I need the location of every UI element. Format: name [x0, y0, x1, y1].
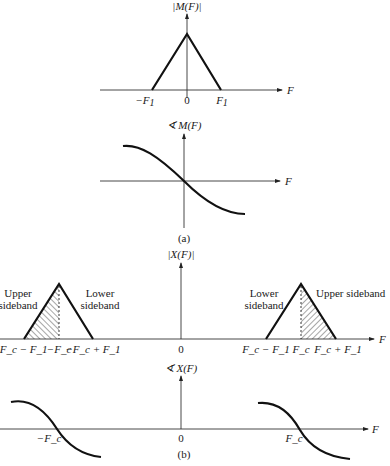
x-axis-label: F	[284, 175, 292, 187]
tick-zero: 0	[178, 343, 184, 355]
right-upper-sideband-label: Upper sideband	[316, 287, 386, 299]
y-axis-label: |M(F)|	[172, 0, 201, 13]
tick-fc-minus-f1: F_c − F_1	[241, 343, 290, 355]
left-upper-sideband-label-1: Upper	[4, 287, 32, 299]
left-lower-sideband-label-2: sideband	[80, 299, 120, 311]
left-upper-sideband-label-2: sideband	[0, 299, 38, 311]
y-axis-label: ∢ X(F)	[165, 362, 198, 375]
baseband-triangle	[152, 34, 221, 90]
tick-zero: 0	[178, 432, 184, 444]
phase-plot-b: ∢ X(F) F 0 −F_c F_c (b)	[0, 362, 379, 461]
right-lower-sideband-label-1: Lower	[250, 287, 279, 299]
tick-fc-plus-f1: F_c + F_1	[313, 343, 362, 355]
modulation-spectrum-diagram: |M(F)| F −F1 0 F1 ∢ M(F) F (a) |X(F)| F …	[0, 0, 390, 466]
left-lower-sideband-label-1: Lower	[86, 287, 115, 299]
x-axis-label: F	[371, 423, 379, 435]
x-axis-label: F	[378, 333, 386, 345]
magnitude-plot-b: |X(F)| F Upper sideband Lower sideband L…	[0, 248, 386, 355]
tick-neg-fc: −F_c	[37, 432, 62, 444]
right-lower-sideband-label-2: sideband	[244, 299, 284, 311]
tick-neg-f1: −F1	[135, 94, 154, 108]
caption-b: (b)	[178, 448, 191, 461]
tick-fc: F_c	[284, 432, 302, 444]
y-axis-label: ∢ M(F)	[167, 119, 202, 132]
magnitude-plot-a: |M(F)| F −F1 0 F1	[100, 0, 294, 108]
x-axis-label: F	[286, 84, 294, 96]
tick-zero: 0	[184, 94, 190, 106]
y-axis-label: |X(F)|	[168, 248, 195, 261]
tick-neg-fc-plus-f1: −F_c + F_1	[65, 343, 120, 355]
caption-a: (a)	[178, 232, 191, 245]
tick-fc: F_c	[291, 343, 309, 355]
phase-plot-a: ∢ M(F) F (a)	[100, 119, 292, 245]
tick-neg-fc-minus-f1: −F_c − F_1	[0, 343, 48, 355]
phase-curve-right	[258, 403, 350, 459]
tick-pos-f1: F1	[215, 94, 228, 108]
